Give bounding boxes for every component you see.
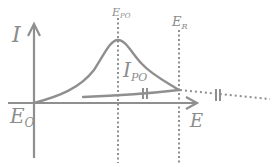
er-label: ER <box>171 14 188 31</box>
extension-break-marks <box>216 89 220 101</box>
oxidation-peak-curve <box>34 40 179 103</box>
epo-label: EPO <box>111 6 131 20</box>
potential-axis-label: E <box>189 110 203 131</box>
current-axis-label: I <box>11 22 22 47</box>
dotted-extension-line <box>180 90 270 99</box>
origin-label: EO <box>9 104 35 130</box>
current-axis <box>28 24 40 158</box>
return-scan-line <box>83 90 179 97</box>
ipo-label: IPO <box>122 58 147 84</box>
voltammogram-diagram: I E EO EPO ER IPO <box>0 0 275 167</box>
